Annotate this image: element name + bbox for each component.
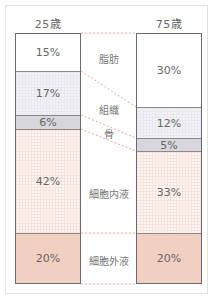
bar-25: 15% 17% 6% 42% 20% <box>15 33 81 284</box>
segment-tissue-75: 12% <box>137 108 201 139</box>
segment-tissue-25: 17% <box>16 72 80 116</box>
label-fat: 脂肪 <box>80 51 137 66</box>
segment-icf-25: 42% <box>16 130 80 234</box>
segment-ecf-25: 20% <box>16 234 80 283</box>
segment-fat-25: 15% <box>16 34 80 72</box>
segment-fat-75: 30% <box>137 34 201 108</box>
column-title-75: 75歳 <box>136 15 202 31</box>
label-ecf: 細胞外液 <box>80 253 137 268</box>
label-bone: 骨 <box>80 126 137 141</box>
segment-bone-75: 5% <box>137 139 201 152</box>
bar-75: 30% 12% 5% 33% 20% <box>136 33 202 284</box>
segment-ecf-75: 20% <box>137 234 201 283</box>
column-title-25: 25歳 <box>15 15 81 31</box>
label-icf: 細胞内液 <box>80 186 137 201</box>
segment-icf-75: 33% <box>137 152 201 234</box>
segment-bone-25: 6% <box>16 116 80 130</box>
label-tissue: 組織 <box>80 102 137 117</box>
